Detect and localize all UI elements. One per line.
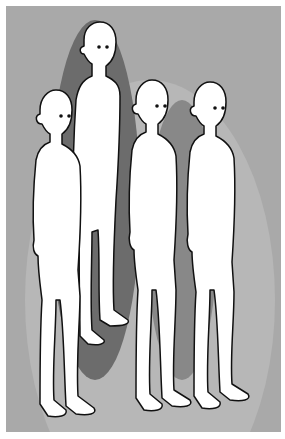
figures-illustration: [6, 6, 281, 432]
illustration-panel: [6, 6, 281, 432]
